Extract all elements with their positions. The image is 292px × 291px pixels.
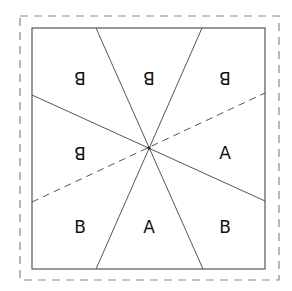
region-label-bottom-right: B (219, 217, 231, 237)
region-label-bottom-left: B (74, 217, 86, 237)
region-label-mid-right: A (219, 143, 231, 163)
region-label-top-left: B (74, 68, 86, 88)
region-label-top-center: B (143, 68, 155, 88)
region-label-bottom-center: A (143, 217, 155, 237)
fold-diagram: BBBBABAB (0, 0, 292, 291)
region-label-mid-left: B (74, 143, 86, 163)
center-point (147, 146, 150, 149)
region-label-top-right: B (219, 68, 231, 88)
